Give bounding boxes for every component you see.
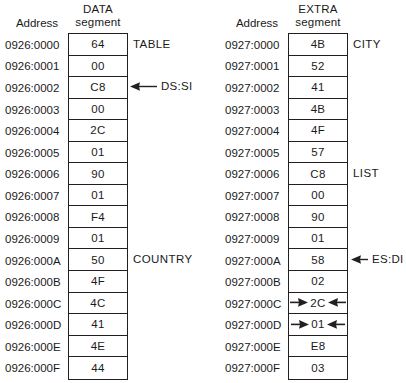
memory-cell[interactable]: 90 <box>69 163 127 185</box>
memory-cell[interactable]: 03 <box>289 357 347 379</box>
memory-map-diagram: DATA segment Address 0926:0000 0926:0001… <box>0 0 406 383</box>
address-label: 0927:0005 <box>225 147 286 159</box>
memory-cell[interactable]: 2C <box>289 293 347 315</box>
address-label: 0926:0008 <box>5 211 66 223</box>
memory-cell[interactable]: 01 <box>69 142 127 164</box>
address-column-header-extra: Address <box>228 17 286 30</box>
memory-cell-value: 4B <box>289 38 347 50</box>
memory-cell[interactable]: 00 <box>69 99 127 121</box>
region-label-table: TABLE <box>133 38 171 50</box>
address-label: 0926:000A <box>5 255 66 267</box>
memory-cell-value: 58 <box>289 254 347 266</box>
address-label: 0927:0003 <box>225 104 286 116</box>
memory-cell[interactable]: 02 <box>289 271 347 293</box>
memory-cell[interactable]: 01 <box>289 314 347 336</box>
region-label-list: LIST <box>353 167 379 179</box>
memory-cell-value: E8 <box>289 340 347 352</box>
region-label-country: COUNTRY <box>133 253 192 265</box>
address-label: 0926:0007 <box>5 190 66 202</box>
memory-cell-value: 01 <box>311 318 324 330</box>
arrow-left-icon <box>351 254 371 265</box>
memory-cell-value: 2C <box>310 297 325 309</box>
memory-cell-value: C8 <box>69 81 127 93</box>
memory-cell-value: 90 <box>69 168 127 180</box>
memory-cell[interactable]: 2C <box>69 120 127 142</box>
panel-data-segment: DATA segment Address 0926:0000 0926:0001… <box>0 0 203 383</box>
memory-cell-value: 4F <box>69 275 127 287</box>
memory-cell[interactable]: 00 <box>69 56 127 78</box>
memory-cell[interactable]: 01 <box>69 185 127 207</box>
memory-cell[interactable]: 01 <box>289 228 347 250</box>
address-label: 0927:0004 <box>225 125 286 137</box>
arrow-left-icon <box>326 319 345 330</box>
address-label: 0927:000B <box>225 276 286 288</box>
address-label: 0927:000E <box>225 341 286 353</box>
memory-cell-value: 2C <box>69 124 127 136</box>
memory-cell-column-data: 64 00 C8 00 2C 01 90 01 F4 01 50 4F 4C 4… <box>68 33 128 380</box>
pointer-label: ES:DI <box>372 253 404 265</box>
memory-cell[interactable]: 41 <box>69 314 127 336</box>
segment-title-data: DATA segment <box>68 3 128 29</box>
memory-cell[interactable]: 4C <box>69 293 127 315</box>
address-label: 0926:0000 <box>5 39 66 51</box>
segment-title-line1: DATA <box>68 3 128 16</box>
memory-cell[interactable]: 41 <box>289 77 347 99</box>
address-label: 0927:0009 <box>225 233 286 245</box>
pointer-label: DS:SI <box>161 80 193 92</box>
memory-cell-value: 64 <box>69 38 127 50</box>
address-label: 0926:0004 <box>5 125 66 137</box>
memory-cell[interactable]: F4 <box>69 206 127 228</box>
memory-cell[interactable]: 4B <box>289 34 347 56</box>
segment-title-line2: segment <box>68 16 128 29</box>
memory-cell[interactable]: 4F <box>289 120 347 142</box>
address-label: 0926:0005 <box>5 147 66 159</box>
memory-cell[interactable]: 00 <box>289 185 347 207</box>
memory-cell-value: C8 <box>289 168 347 180</box>
arrow-left-icon <box>327 297 346 308</box>
address-label: 0927:000C <box>225 298 286 310</box>
memory-cell[interactable]: 90 <box>289 206 347 228</box>
memory-cell-value: 41 <box>289 81 347 93</box>
memory-cell[interactable]: 01 <box>69 228 127 250</box>
address-label: 0926:000D <box>5 319 66 331</box>
address-label: 0926:0003 <box>5 104 66 116</box>
segment-title-line2: segment <box>288 16 348 29</box>
memory-cell[interactable]: E8 <box>289 336 347 358</box>
memory-cell[interactable]: 57 <box>289 142 347 164</box>
region-label-city: CITY <box>353 38 381 50</box>
memory-cell[interactable]: 4F <box>69 271 127 293</box>
arrow-right-icon <box>290 297 309 308</box>
memory-cell-value: 01 <box>69 146 127 158</box>
bidirectional-arrow-group: 2C <box>289 297 347 309</box>
memory-cell-value: 00 <box>289 189 347 201</box>
memory-cell[interactable]: C8 <box>289 163 347 185</box>
segment-title-line1: EXTRA <box>288 3 348 16</box>
memory-cell[interactable]: 58 <box>289 249 347 271</box>
memory-cell-value: 90 <box>289 211 347 223</box>
memory-cell-value: 01 <box>69 189 127 201</box>
address-label: 0926:000B <box>5 276 66 288</box>
segment-title-extra: EXTRA segment <box>288 3 348 29</box>
address-label: 0927:0001 <box>225 60 286 72</box>
memory-cell-value: 41 <box>69 318 127 330</box>
memory-cell[interactable]: 50 <box>69 249 127 271</box>
memory-cell[interactable]: C8 <box>69 77 127 99</box>
memory-cell-value: 4B <box>289 103 347 115</box>
address-label: 0927:0006 <box>225 168 286 180</box>
arrow-right-icon <box>291 319 310 330</box>
memory-cell[interactable]: 64 <box>69 34 127 56</box>
address-label: 0926:000F <box>5 362 66 374</box>
panel-extra-segment: EXTRA segment Address 0927:0000 0927:000… <box>203 0 406 383</box>
memory-cell[interactable]: 4B <box>289 99 347 121</box>
memory-cell-value: 00 <box>69 60 127 72</box>
memory-cell-value: 01 <box>289 232 347 244</box>
memory-cell-value: 00 <box>69 103 127 115</box>
memory-cell[interactable]: 4E <box>69 336 127 358</box>
address-label: 0927:000F <box>225 362 286 374</box>
memory-cell-value: F4 <box>69 211 127 223</box>
memory-cell-value: 01 <box>69 232 127 244</box>
memory-cell[interactable]: 52 <box>289 56 347 78</box>
address-label: 0926:0006 <box>5 168 66 180</box>
memory-cell[interactable]: 44 <box>69 357 127 379</box>
address-label: 0927:0000 <box>225 39 286 51</box>
